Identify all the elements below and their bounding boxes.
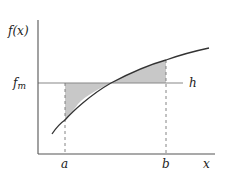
b-label: b (162, 157, 170, 171)
y-axis-label: f(x) (7, 24, 29, 38)
mean-value-diagram: f(x) fm h a b x (0, 0, 228, 178)
shaded-region-above (111, 60, 166, 83)
diagram-canvas: f(x) fm h a b x (0, 0, 228, 178)
x-axis-label: x (203, 157, 210, 171)
fm-label: fm (12, 76, 26, 91)
shaded-region-below (65, 83, 111, 120)
h-label: h (189, 76, 197, 90)
a-label: a (61, 157, 68, 171)
